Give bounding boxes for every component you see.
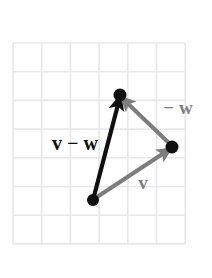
point-tail <box>87 194 99 206</box>
label-v-minus-w: v − w <box>52 132 98 154</box>
point-head-v <box>166 141 179 154</box>
point-head-v-minus-w <box>114 89 127 102</box>
label-minus-w: − w <box>163 97 193 118</box>
vector-subtraction-figure: v − wv− w <box>0 0 212 278</box>
label-v: v <box>138 172 148 193</box>
figure-background <box>0 0 212 278</box>
figure-canvas: v − wv− w <box>0 0 212 278</box>
